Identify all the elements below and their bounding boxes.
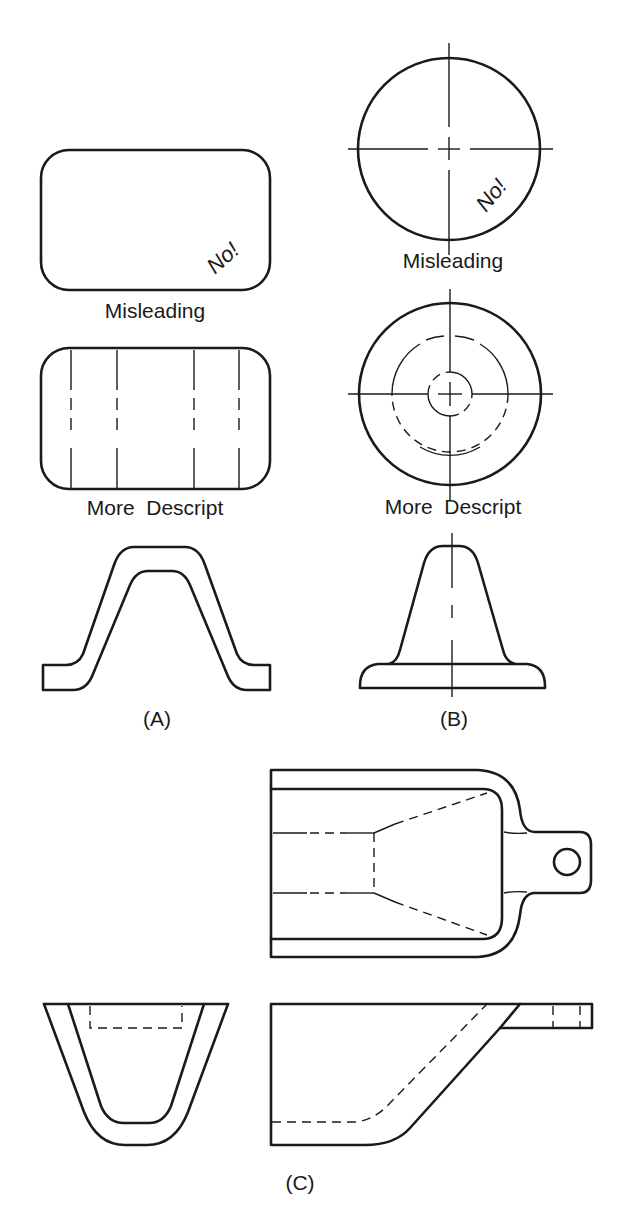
panel-b-misleading-view: No! Misleading bbox=[348, 43, 553, 272]
panel-b-label: (B) bbox=[440, 707, 468, 730]
panel-a-descriptive-view: More Descript bbox=[41, 348, 270, 519]
panel-c: (C) bbox=[44, 770, 592, 1194]
panel-b-descriptive-view: More Descript bbox=[348, 289, 553, 518]
panel-b: No! Misleading bbox=[348, 43, 553, 730]
hat-profile-outline bbox=[43, 547, 270, 690]
misleading-caption: Misleading bbox=[105, 299, 205, 322]
descriptive-caption: More Descript bbox=[385, 495, 522, 518]
no-annotation: No! bbox=[202, 237, 244, 278]
panel-a-label: (A) bbox=[143, 707, 171, 730]
descriptive-caption: More Descript bbox=[87, 496, 224, 519]
panel-a-misleading-view: No! Misleading bbox=[41, 150, 270, 322]
rounded-rectangle-outline bbox=[41, 348, 270, 489]
panel-c-label: (C) bbox=[285, 1171, 314, 1194]
panel-a: No! Misleading bbox=[41, 150, 270, 730]
panel-c-front-view bbox=[271, 1004, 592, 1145]
panel-a-hat-section bbox=[43, 547, 270, 690]
center-lines bbox=[348, 289, 553, 500]
panel-c-top-view bbox=[271, 770, 591, 957]
panel-c-side-view bbox=[44, 1004, 228, 1145]
top-view-hidden-lines bbox=[273, 793, 527, 935]
misleading-caption: Misleading bbox=[403, 249, 503, 272]
rounded-rectangle-outline bbox=[41, 150, 270, 290]
front-view-tab-edge bbox=[500, 1004, 520, 1028]
top-view-outer-outline bbox=[271, 770, 591, 957]
center-lines bbox=[348, 43, 553, 255]
front-view-outline bbox=[271, 1004, 592, 1145]
technical-drawing-figure: No! Misleading bbox=[0, 0, 625, 1231]
no-annotation: No! bbox=[471, 174, 512, 216]
tab-hole bbox=[554, 849, 580, 875]
panel-b-cone-section bbox=[360, 533, 545, 697]
tangent-lines bbox=[71, 350, 239, 488]
front-view-hidden-inner bbox=[272, 1004, 487, 1122]
side-view-hidden-tab bbox=[90, 1006, 182, 1028]
top-view-inner-outline bbox=[271, 789, 502, 939]
side-view-inner-outline bbox=[68, 1004, 204, 1123]
